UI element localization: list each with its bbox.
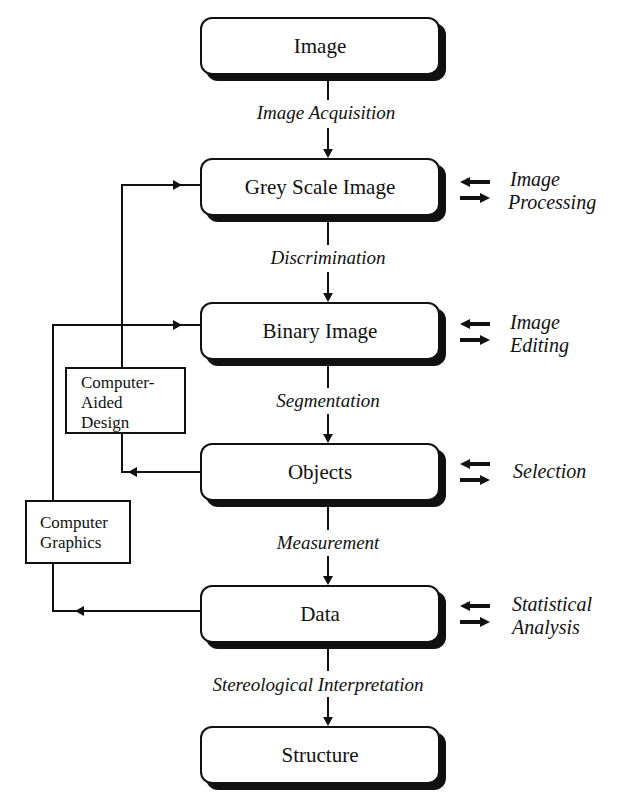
bidirectional-arrows-grey [460,177,490,203]
side-op-line: Selection [513,460,586,483]
node-data: Data [200,585,440,643]
side-op-line: Image [510,311,569,334]
side-op-line: Image [510,168,596,191]
label-stereological-interpretation: Stereological Interpretation [210,674,425,696]
label-measurement: Measurement [275,532,382,554]
side-op-selection: Selection [513,460,586,483]
box-line: Graphics [40,533,129,553]
side-op-image-processing: Image Processing [510,168,596,214]
label-segmentation: Segmentation [274,390,381,412]
box-line: Computer [40,513,129,533]
side-op-line: Editing [510,334,569,357]
image-analysis-flowchart: Image Grey Scale Image Binary Image Obje… [0,0,625,812]
node-grey-scale-image: Grey Scale Image [200,158,440,216]
bidirectional-arrows-data [460,601,490,627]
node-objects: Objects [200,443,440,501]
side-op-image-editing: Image Editing [510,311,569,357]
box-line: Computer- [81,373,184,393]
box-line: Aided [81,393,184,413]
node-binary-image: Binary Image [200,302,440,360]
node-structure: Structure [200,726,440,784]
node-image: Image [200,17,440,75]
side-op-statistical-analysis: Statistical Analysis [512,593,592,639]
label-discrimination: Discrimination [268,247,387,269]
box-computer-aided-design: Computer- Aided Design [65,367,186,434]
side-op-line: Processing [508,191,596,214]
bidirectional-arrows-binary [460,319,490,345]
label-image-acquisition: Image Acquisition [255,102,397,124]
box-line: Design [81,413,184,433]
bidirectional-arrows-objects [460,459,490,485]
side-op-line: Statistical [512,593,592,616]
box-computer-graphics: Computer Graphics [25,500,131,564]
side-op-line: Analysis [512,616,592,639]
